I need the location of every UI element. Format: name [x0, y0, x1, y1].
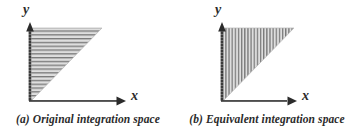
integration-region-a [31, 28, 102, 101]
caption-a: (a) Original integration space [0, 112, 178, 126]
y-axis-label-a: y [23, 2, 29, 18]
x-axis-label-a: x [131, 88, 138, 104]
plot-area-b [178, 0, 356, 112]
x-axis-label-b: x [302, 88, 309, 104]
panel-original-integration-space: y x (a) Original integration space [0, 0, 178, 140]
x-axis-a [29, 97, 126, 106]
panel-equivalent-integration-space: y x (b) Equivalent integration space [178, 0, 356, 140]
y-axis-label-b: y [215, 2, 221, 18]
integration-region-b [223, 28, 294, 101]
x-axis-b [221, 97, 297, 106]
figure-container: y x (a) Original integration space [0, 0, 356, 140]
caption-b: (b) Equivalent integration space [178, 112, 356, 126]
